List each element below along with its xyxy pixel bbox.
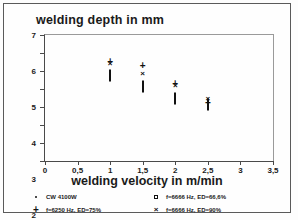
x-axis-tick (78, 161, 79, 165)
data-point (142, 83, 144, 92)
y-axis-tick-label: 4 (32, 140, 36, 148)
x-axis-tick (240, 161, 241, 165)
y-axis-tick: 3 (40, 107, 45, 108)
chart-legend: CW 4100Wf=6666 Hz, ED=66,6%+f=6250 Hz, E… (30, 190, 280, 216)
legend-label: f=6250 Hz, ED=75% (46, 207, 101, 213)
x-axis-tick (208, 161, 209, 165)
y-axis-tick: 1 (40, 143, 45, 144)
square-marker-icon (174, 92, 176, 104)
x-axis-tick (45, 161, 46, 165)
y-axis-tick: 7 (40, 35, 45, 36)
plus-marker-icon: + (33, 205, 39, 215)
legend-label: CW 4100W (46, 194, 77, 200)
y-axis-tick-label: 5 (32, 104, 36, 112)
x-axis-tick (143, 161, 144, 165)
data-point: × (140, 68, 145, 77)
x-axis-tick (175, 161, 176, 165)
chart-frame: welding depth in mm 0123456700,511,522,5… (3, 3, 291, 213)
x-axis-label: welding velocity in m/min (4, 174, 290, 188)
legend-item: f=6666 Hz, ED=66,6% (150, 194, 280, 200)
legend-label: f=6666 Hz, ED=66,6% (166, 194, 226, 200)
cross-marker-icon: × (154, 206, 159, 214)
plot-area: 0123456700,511,522,533,5++++×××× (44, 34, 274, 162)
dot-marker-icon (35, 196, 37, 198)
legend-marker (30, 196, 42, 198)
page-title: welding depth in mm (36, 13, 164, 27)
legend-item: +f=6250 Hz, ED=75% (30, 205, 150, 215)
data-point: × (206, 94, 211, 103)
legend-label: f=6666 Hz, ED=90% (166, 207, 221, 213)
data-point (109, 72, 111, 81)
y-axis-tick: 4 (40, 89, 45, 90)
y-axis-tick: 2 (40, 125, 45, 126)
data-point: × (173, 81, 178, 90)
cross-marker-icon: × (173, 81, 178, 90)
square-marker-icon (109, 70, 111, 82)
y-axis-tick: 6 (40, 53, 45, 54)
legend-marker: × (150, 206, 162, 214)
square-marker-icon (142, 81, 144, 93)
legend-item: ×f=6666 Hz, ED=90% (150, 206, 280, 214)
legend-marker: + (30, 205, 42, 215)
cross-marker-icon: × (206, 94, 211, 103)
cross-marker-icon: × (108, 58, 113, 67)
y-axis-tick-label: 7 (32, 32, 36, 40)
x-axis-tick (273, 161, 274, 165)
y-axis-tick-label: 6 (32, 68, 36, 76)
data-point: × (108, 58, 113, 67)
cross-marker-icon: × (140, 68, 145, 77)
y-axis-tick: 5 (40, 71, 45, 72)
legend-item: CW 4100W (30, 194, 150, 200)
legend-marker (150, 195, 162, 199)
x-axis-tick (110, 161, 111, 165)
square-marker-icon (154, 195, 158, 199)
data-point (174, 94, 176, 103)
